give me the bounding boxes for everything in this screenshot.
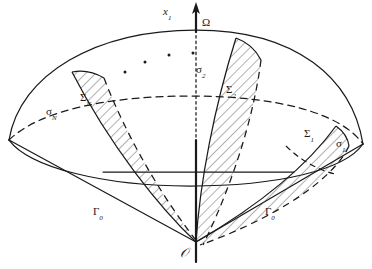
cone-edge-left	[9, 140, 196, 242]
sigma-1-label: σ1	[336, 138, 345, 152]
spherical-sector-diagram	[0, 0, 372, 269]
ellipsis-dot-2	[144, 61, 147, 64]
capital-sigma-1-label: Σ1	[304, 128, 314, 142]
sigma-n-label: σN	[46, 106, 57, 120]
figure-container: x1 Ω σ2 σ1 σN Σ2 Σ1 ΣN Γ0 Γ0 𝒪	[0, 0, 372, 269]
ellipsis-dot-4	[192, 52, 195, 55]
ellipsis-dots	[124, 52, 195, 74]
axis-label: x1	[163, 6, 171, 20]
capital-sigma-2-label: Σ2	[226, 84, 236, 98]
sigma-2-sub: 2	[202, 72, 206, 80]
capital-sigma-n-label: ΣN	[80, 92, 91, 106]
capital-sigma-2-sub: 2	[232, 92, 236, 100]
sigma-2-label: σ2	[196, 64, 205, 78]
sigma-1-sub: 1	[342, 146, 346, 154]
lobe-n-edge-back-dashed	[104, 78, 199, 244]
gamma-left-label: Γ0	[93, 206, 103, 220]
ellipsis-dot-1	[124, 71, 127, 74]
gamma-right-sub: 0	[271, 214, 275, 222]
domain-label: Ω	[202, 17, 210, 28]
gamma-right-label: Γ0	[265, 206, 275, 220]
gamma-left-sub: 0	[99, 214, 103, 222]
capital-sigma-n-sub: N	[86, 100, 91, 108]
origin-label: 𝒪	[180, 246, 188, 259]
axis-label-sub: 1	[168, 14, 172, 22]
sigma-n-sub: N	[52, 114, 57, 122]
lobe-sigma-n	[0, 0, 372, 269]
capital-sigma-1-sub: 1	[310, 136, 314, 144]
ellipsis-dot-3	[168, 54, 171, 57]
